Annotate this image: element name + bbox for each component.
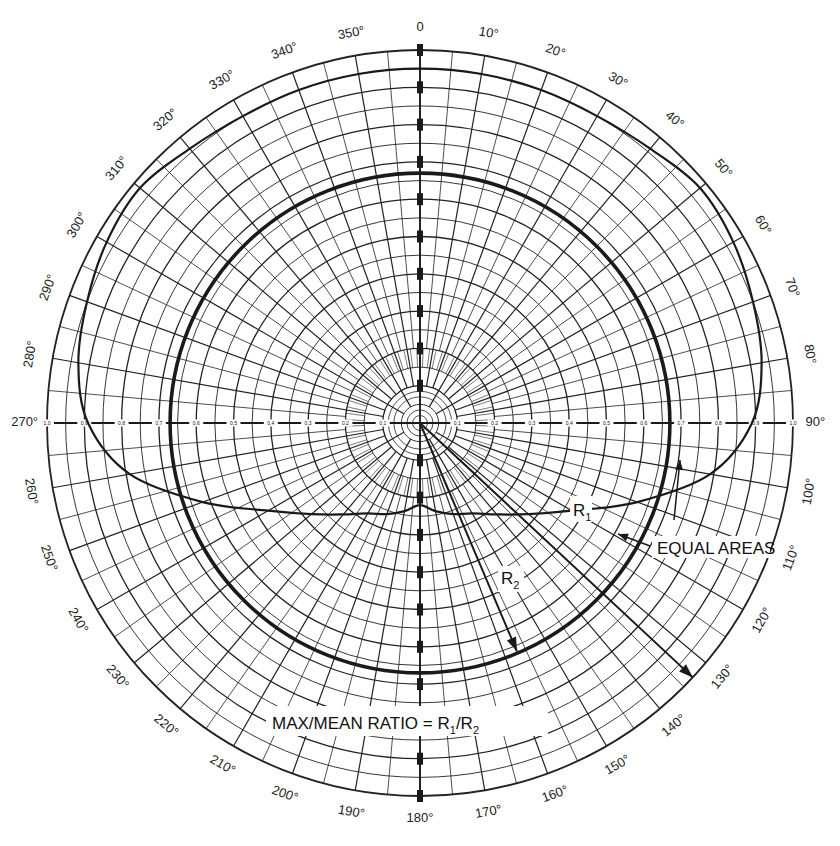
grid-spoke-fine [346, 430, 364, 432]
radius-arrows [420, 423, 693, 677]
angle-label: 100° [799, 477, 818, 506]
angle-label: 40° [662, 107, 687, 131]
angle-label: 270° [11, 414, 38, 429]
radial-tick-mark [417, 231, 423, 243]
angle-label: 250° [38, 543, 61, 573]
angle-label: 340° [269, 39, 299, 62]
grid-spoke [439, 63, 516, 351]
angle-label: 10° [478, 23, 500, 41]
grid-spoke-fine [437, 352, 443, 370]
angle-label: 80° [801, 343, 819, 365]
angle-label: 30° [606, 68, 631, 91]
radial-tick-mark [417, 81, 423, 93]
radial-tick-label: 0.3 [305, 420, 312, 426]
angle-label: 160° [540, 782, 570, 805]
angle-label: 120° [748, 605, 774, 636]
radial-tick-label: 1.0 [790, 420, 797, 426]
angle-label: 290° [36, 272, 59, 302]
grid-spoke [488, 265, 758, 391]
grid-spoke-fine [398, 352, 404, 370]
grid-spoke-fine [398, 476, 404, 494]
max-mean-ratio-label: MAX/MEAN RATIO = R1/R2 [272, 714, 479, 736]
radial-tick-mark [417, 529, 423, 541]
grid-spoke-fine [475, 413, 493, 415]
radial-tick-mark [417, 604, 423, 616]
grid-spoke [82, 265, 352, 391]
grid-spoke-fine [427, 349, 429, 367]
grid-spoke [82, 455, 352, 581]
grid-spoke [455, 295, 770, 410]
radial-tick-mark [417, 156, 423, 168]
grid-spoke [60, 326, 348, 403]
angle-label: 350° [337, 23, 366, 42]
radial-tick-mark [417, 193, 423, 205]
angle-label: 70° [782, 276, 803, 300]
grid-spoke [433, 72, 548, 387]
grid-spoke-fine [410, 478, 412, 496]
grid-spoke [492, 442, 780, 519]
angle-label: 170° [474, 802, 503, 821]
radial-tick-mark [417, 44, 423, 56]
equal-areas-label: EQUAL AREAS [657, 539, 775, 558]
radial-tick-mark [417, 454, 423, 466]
grid-spoke [323, 63, 400, 351]
radial-tick-label: 0.2 [342, 420, 349, 426]
grid-spoke [439, 495, 516, 783]
angle-label: 330° [206, 66, 237, 92]
grid-spoke-fine [349, 401, 367, 407]
grid-spoke [452, 85, 578, 355]
grid-spoke [262, 85, 388, 355]
angle-label: 320° [150, 105, 180, 134]
radial-tick-label: 0.2 [491, 420, 498, 426]
angular-tick-labels: 010°20°30°40°50°60°70°80°90°100°110°120°… [11, 19, 825, 825]
grid-spoke-fine [410, 349, 412, 367]
radial-tick-label: 0.5 [603, 420, 610, 426]
radial-tick-mark [417, 380, 423, 392]
grid-spoke [60, 442, 348, 519]
radial-tick-mark [417, 790, 423, 802]
radial-tick-mark [417, 305, 423, 317]
grid-spoke-fine [473, 401, 491, 407]
angle-label: 90° [806, 414, 826, 429]
radial-tick-label: 0.1 [379, 420, 386, 426]
grid-spoke [488, 455, 758, 581]
radial-tick-mark [417, 492, 423, 504]
radial-tick-label: 0.6 [193, 420, 200, 426]
angle-label: 240° [65, 605, 91, 636]
radial-tick-mark [417, 268, 423, 280]
radial-tick-mark [417, 753, 423, 765]
angle-label: 0 [416, 19, 423, 34]
angle-label: 180° [407, 810, 434, 825]
radial-tick-label: 0.4 [566, 420, 573, 426]
angle-label: 310° [102, 153, 131, 183]
grid-spoke-fine [473, 440, 491, 446]
radial-tick-mark [417, 678, 423, 690]
radial-tick-mark [417, 342, 423, 354]
r1-arrow [420, 423, 693, 677]
angle-label: 60° [752, 213, 775, 238]
grid-spoke [292, 72, 407, 387]
angle-label: 210° [207, 751, 238, 777]
angle-label: 20° [544, 40, 568, 61]
grid-spoke-fine [349, 440, 367, 446]
radial-tick-label: 0.8 [715, 420, 722, 426]
grid-spoke-fine [475, 430, 493, 432]
angle-label: 230° [104, 661, 133, 691]
angle-label: 50° [712, 156, 736, 181]
polar-chart: 0.10.10.20.20.30.30.40.40.50.50.60.60.70… [0, 0, 840, 846]
angle-label: 150° [602, 751, 633, 777]
grid-spoke [323, 495, 400, 783]
radial-tick-label: 0.8 [118, 420, 125, 426]
radial-tick-label: 1.0 [44, 420, 51, 426]
radial-tick-mark [417, 119, 423, 131]
equal-areas-pointer-head [675, 460, 683, 470]
angle-label: 190° [337, 802, 366, 821]
angle-label: 260° [22, 477, 41, 506]
grid-spoke [69, 295, 384, 410]
radial-tick-label: 0.4 [267, 420, 274, 426]
radial-tick-mark [417, 641, 423, 653]
angle-label: 110° [779, 543, 802, 573]
grid-spoke [455, 436, 770, 551]
radial-tick-label: 0.3 [528, 420, 535, 426]
angle-label: 300° [63, 209, 89, 240]
